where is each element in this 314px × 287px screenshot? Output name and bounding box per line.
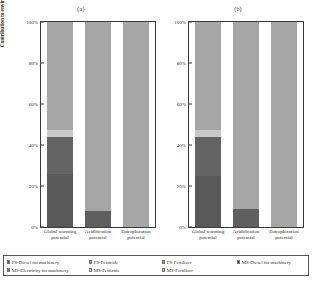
y-tick-a-80: 80% [29,61,41,66]
x-axis-ticks-a: Global warmingpotentialAcidificationpote… [41,227,155,245]
stacked-bar[interactable] [195,22,221,227]
legend-item[interactable]: MS-Fertilizer [162,268,193,273]
bar-segment [195,176,221,227]
legend-swatch-icon [89,260,92,263]
y-tick-b-100: 100% [174,20,189,25]
bar-slot-b-2 [271,22,297,227]
bar-slot-b-1 [233,22,259,227]
legend-swatch-icon [89,268,92,271]
bar-segment [271,22,297,227]
stacked-bar[interactable] [271,22,297,227]
bar-group-a [41,22,155,227]
x-tick-label-a-2: Eutrophicationpotential [108,229,164,242]
y-tick-a-100: 100% [26,20,41,25]
legend-item[interactable]: MS-Pesticide [89,268,120,273]
bar-slot-b-0 [195,22,221,227]
legend-item[interactable]: MS-Diesel for machinery [237,260,291,265]
panel-b-title: (b) [162,6,314,12]
y-tick-b-40: 40% [177,143,189,148]
x-tick-label-b-2: Eutrophicationpotential [256,229,312,242]
legend-swatch-icon [162,268,165,271]
panel-b: (b) 0%20%40%60%80%100% Global warmingpot… [162,0,314,250]
figure-canvas: (a) Contribution to environmental impact… [0,0,314,287]
bar-group-b [189,22,303,227]
bar-segment [85,211,111,227]
legend-swatch-icon [162,260,165,263]
bar-slot-a-1 [85,22,111,227]
legend-label: FS-Diesel for machinery [12,260,59,265]
bar-segment [195,130,221,137]
legend-row-0: FS-Diesel for machineryFS-PesticideFS-Fe… [7,258,305,266]
panel-a-title: (a) [0,6,162,12]
y-tick-a-40: 40% [29,143,41,148]
legend-item[interactable]: FS-Pesticide [89,260,118,265]
bar-segment [85,22,111,211]
legend-item[interactable]: FS-Fertilizer [162,260,191,265]
legend-item[interactable]: MS-Electricity for machinery [7,268,69,273]
legend-swatch-icon [7,268,10,271]
plot-area-a: 0%20%40%60%80%100% Global warmingpotenti… [40,21,156,228]
y-tick-b-60: 60% [177,102,189,107]
legend-swatch-icon [237,260,240,263]
bar-segment [233,22,259,209]
legend-label: FS-Fertilizer [167,260,192,265]
bar-segment [47,137,73,174]
legend-label: MS-Pesticide [94,268,120,273]
y-axis-label: Contribution to environmental impact (%) [0,0,5,60]
legend-label: MS-Diesel for machinery [242,260,291,265]
stacked-bar[interactable] [123,22,149,227]
panel-a: (a) Contribution to environmental impact… [0,0,162,250]
bar-slot-a-2 [123,22,149,227]
y-tick-b-20: 20% [177,184,189,189]
legend-item[interactable]: FS-Diesel for machinery [7,260,59,265]
legend-swatch-icon [7,260,10,263]
y-tick-a-20: 20% [29,184,41,189]
y-tick-a-60: 60% [29,102,41,107]
bar-segment [47,22,73,130]
bar-segment [195,22,221,130]
legend-label: MS-Electricity for machinery [12,268,69,273]
bar-segment [123,22,149,227]
bar-slot-a-0 [47,22,73,227]
bar-segment [195,137,221,176]
stacked-bar[interactable] [47,22,73,227]
stacked-bar[interactable] [233,22,259,227]
legend-label: FS-Pesticide [94,260,118,265]
chart-legend: FS-Diesel for machineryFS-PesticideFS-Fe… [3,255,309,276]
bar-segment [47,130,73,137]
stacked-bar[interactable] [85,22,111,227]
bar-segment [233,209,259,227]
plot-area-b: 0%20%40%60%80%100% Global warmingpotenti… [188,21,304,228]
y-tick-b-80: 80% [177,61,189,66]
x-axis-ticks-b: Global warmingpotentialAcidificationpote… [189,227,303,245]
legend-label: MS-Fertilizer [167,268,193,273]
bar-segment [47,174,73,227]
legend-row-1: MS-Electricity for machineryMS-Pesticide… [7,266,305,274]
